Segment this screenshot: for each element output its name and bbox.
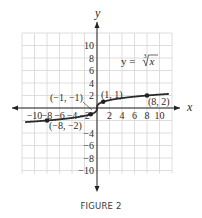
svg-text:−4: −4 xyxy=(83,128,94,139)
svg-text:y =: y = xyxy=(121,55,135,67)
svg-text:−10: −10 xyxy=(27,110,43,121)
point-label-neg1-neg1: (−1, −1) xyxy=(50,92,83,104)
x-axis-label: x xyxy=(186,100,193,114)
y-axis-label: y xyxy=(94,6,101,20)
svg-text:8: 8 xyxy=(89,53,94,64)
svg-text:2: 2 xyxy=(107,110,112,121)
svg-text:10: 10 xyxy=(155,110,165,121)
data-point xyxy=(88,112,93,117)
data-point xyxy=(101,99,106,104)
svg-text:4: 4 xyxy=(89,78,94,89)
axes xyxy=(12,22,180,192)
equation-label: y = 3 x xyxy=(121,53,158,67)
point-label-neg8-neg2: (−8, −2) xyxy=(49,120,82,132)
root-index: 3 xyxy=(144,53,147,59)
svg-text:6: 6 xyxy=(132,110,137,121)
svg-text:x: x xyxy=(149,55,155,67)
svg-text:8: 8 xyxy=(145,110,150,121)
figure-caption: FIGURE 2 xyxy=(0,201,202,211)
svg-text:−10: −10 xyxy=(78,165,94,176)
point-label-8-2: (8, 2) xyxy=(148,96,170,108)
point-label-1-1: (1, 1) xyxy=(101,89,123,101)
svg-text:4: 4 xyxy=(120,110,125,121)
svg-text:10: 10 xyxy=(84,40,94,51)
svg-text:2: 2 xyxy=(89,90,94,101)
cube-root-graph: −10−8−6−4−2246810108642−4−6−8−10 y x y =… xyxy=(0,0,202,200)
svg-text:6: 6 xyxy=(89,65,94,76)
svg-text:−8: −8 xyxy=(83,153,94,164)
svg-text:−6: −6 xyxy=(83,140,94,151)
